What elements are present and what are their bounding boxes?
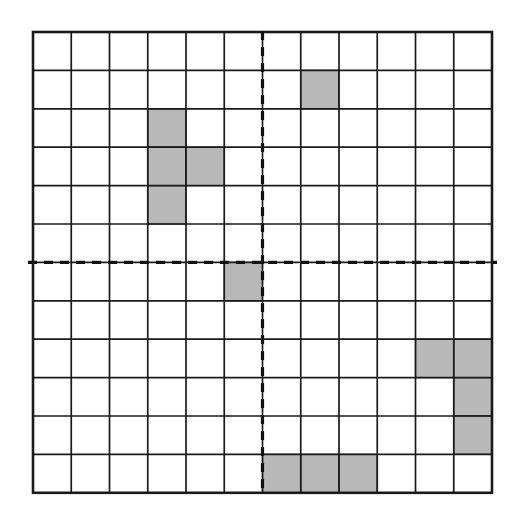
grid-cell-shaded-r12-c7 xyxy=(263,454,301,492)
grid-cell-shaded-r5-c4 xyxy=(148,186,186,224)
grid-cell-shaded-r10-c12 xyxy=(454,378,492,416)
grid-cell-shaded-r2-c8 xyxy=(301,70,339,108)
grid-cell-shaded-r3-c4 xyxy=(148,109,186,147)
figure-root xyxy=(0,0,512,519)
grid-cell-shaded-r7-c6 xyxy=(224,262,262,300)
grid-cell-shaded-r9-c11 xyxy=(416,339,454,377)
grid-cell-shaded-r11-c12 xyxy=(454,416,492,454)
grid-diagram xyxy=(0,0,512,519)
grid-cell-shaded-r12-c8 xyxy=(301,454,339,492)
grid-cell-shaded-r9-c12 xyxy=(454,339,492,377)
grid-cell-shaded-r12-c9 xyxy=(339,454,377,492)
grid-cell-shaded-r4-c5 xyxy=(186,147,224,185)
figure-background xyxy=(0,0,512,519)
grid-cell-shaded-r4-c4 xyxy=(148,147,186,185)
